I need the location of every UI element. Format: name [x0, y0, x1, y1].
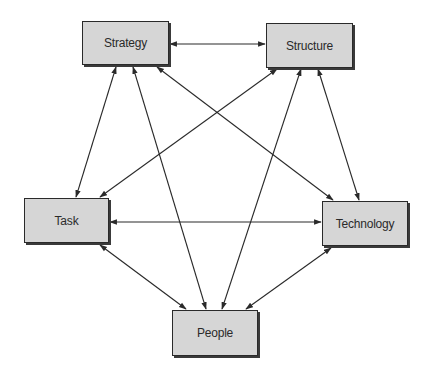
node-task: Task	[24, 198, 109, 243]
edge-task-people	[100, 245, 186, 309]
node-label-strategy: Strategy	[104, 36, 147, 50]
edge-strategy-task	[76, 67, 116, 197]
edge-structure-task	[100, 69, 277, 197]
edge-structure-people	[222, 69, 301, 309]
node-strategy: Strategy	[82, 21, 169, 65]
node-label-technology: Technology	[336, 217, 395, 231]
node-technology: Technology	[322, 201, 408, 246]
edge-strategy-technology	[157, 67, 333, 200]
edge-strategy-people	[133, 67, 206, 309]
edge-structure-technology	[318, 69, 359, 200]
node-people: People	[172, 310, 258, 356]
diagram-canvas: Strategy Structure Task Technology Peopl…	[0, 0, 432, 376]
node-label-task: Task	[55, 214, 79, 228]
node-label-structure: Structure	[286, 39, 333, 53]
node-label-people: People	[197, 326, 233, 340]
node-structure: Structure	[266, 23, 353, 68]
edge-technology-people	[246, 248, 331, 309]
